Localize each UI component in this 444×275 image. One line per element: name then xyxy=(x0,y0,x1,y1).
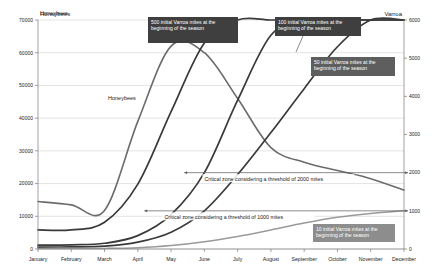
tick-label-right-2000: 2000 xyxy=(409,169,420,175)
tick-label-right-0: 0 xyxy=(409,246,412,252)
label-honeybees-inline: Honeybees xyxy=(108,95,136,101)
varroa-honeybee-chart: Critical zone considering a threshold of… xyxy=(0,0,444,275)
month-label-march: March xyxy=(97,256,112,262)
month-label-august: August xyxy=(263,256,280,262)
month-label-october: October xyxy=(328,256,347,262)
month-label-april: April xyxy=(133,256,143,262)
tick-label-left-60000: 60000 xyxy=(19,50,33,56)
tick-label-left-50000: 50000 xyxy=(19,82,33,88)
axis-title-right: Varroa xyxy=(384,11,402,17)
tick-label-left-30000: 30000 xyxy=(19,148,33,154)
tick-label-right-6000: 6000 xyxy=(409,17,420,23)
month-label-january: January xyxy=(29,256,48,262)
tick-label-left-40000: 40000 xyxy=(19,115,33,121)
month-label-july: July xyxy=(233,256,243,262)
callout-50-text: 50 initial Varroa mites at thebeginning … xyxy=(314,59,376,71)
threshold-label-2000: Critical zone considering a threshold of… xyxy=(204,176,323,182)
tick-label-left-0: 0 xyxy=(30,246,33,252)
callout-10-text: 10 initial Varroa mites at thebeginning … xyxy=(316,226,378,238)
month-label-november: November xyxy=(359,256,383,262)
threshold-label-1000: Critical zone considering a threshold of… xyxy=(164,214,283,220)
month-label-september: September xyxy=(291,256,317,262)
tick-label-left-10000: 10000 xyxy=(19,213,33,219)
tick-label-right-3000: 3000 xyxy=(409,131,420,137)
chart-canvas: Critical zone considering a threshold of… xyxy=(0,0,444,275)
month-label-february: February xyxy=(61,256,82,262)
month-label-december: December xyxy=(392,256,416,262)
month-label-may: May xyxy=(166,256,176,262)
month-label-june: June xyxy=(199,256,210,262)
tick-label-left-20000: 20000 xyxy=(19,180,33,186)
tick-label-right-5000: 5000 xyxy=(409,55,420,61)
tick-label-left-70000: 70000 xyxy=(19,17,33,23)
tick-label-right-4000: 4000 xyxy=(409,93,420,99)
tick-label-right-1000: 1000 xyxy=(409,208,420,214)
label-honeybees-top: Honeybees xyxy=(40,10,68,16)
